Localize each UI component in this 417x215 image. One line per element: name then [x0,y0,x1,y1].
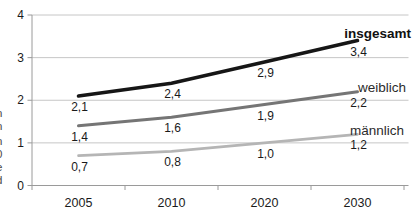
value-label: 1,6 [164,121,181,135]
value-label: 1,4 [71,130,88,144]
x-tick-label: 2030 [344,196,372,210]
clipped-text-fragment: n [0,136,9,147]
value-label: 3,4 [350,45,367,59]
value-label: 0,7 [71,160,88,174]
clipped-text-fragment: : [0,95,9,106]
value-label: 0,8 [164,155,181,169]
line-chart: 0123420052010202020302,12,42,93,4insgesa… [0,0,417,215]
series-line-weiblich [79,92,358,126]
x-tick-label: 2020 [251,196,279,210]
series-line-männlich [79,134,358,155]
value-label: 2,9 [257,66,274,80]
value-label: 2,1 [71,100,88,114]
series-name-label: weiblich [357,80,406,95]
y-tick-label: 2 [17,93,24,107]
value-label: 1,9 [257,109,274,123]
clipped-text-fragment: d [0,175,9,186]
chart-figure: :nnn0ed) 0123420052010202020302,12,42,93… [0,0,417,215]
clipped-text-fragment: e [0,162,9,173]
x-tick-label: 2005 [65,196,93,210]
value-label: 2,4 [164,87,181,101]
clipped-text-fragment: n [0,108,9,119]
value-label: 1,0 [257,147,274,161]
series-name-label: insgesamt [344,26,411,41]
y-tick-label: 1 [17,136,24,150]
series-name-label: männlich [350,123,404,138]
clipped-text-fragment: ) [0,190,9,201]
clipped-text-fragment: n [0,121,9,132]
x-tick-label: 2010 [158,196,186,210]
y-tick-label: 3 [17,51,24,65]
value-label: 2,2 [350,96,367,110]
y-tick-label: 0 [17,179,24,193]
value-label: 1,2 [350,138,367,152]
y-tick-label: 4 [17,8,24,22]
clipped-text-fragment: 0 [0,149,9,160]
series-line-insgesamt [79,41,358,96]
